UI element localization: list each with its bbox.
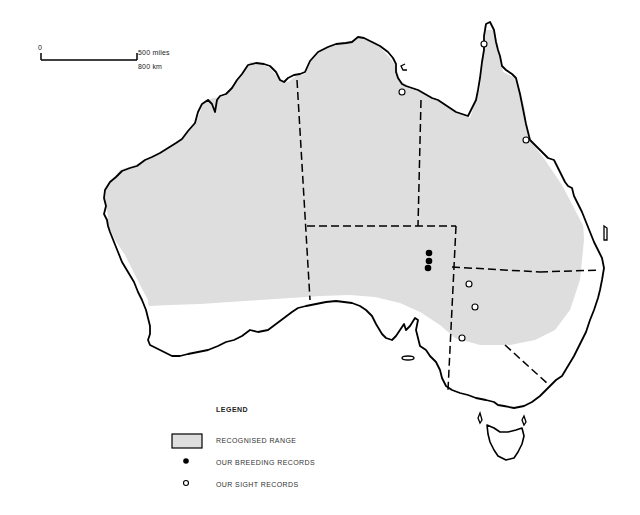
breeding-records (425, 250, 433, 272)
legend-label-sight: OUR SIGHT RECORDS (216, 481, 299, 488)
scale-miles-label: 500 miles (138, 49, 170, 56)
legend-label-range: RECOGNISED RANGE (216, 437, 296, 444)
legend-breeding-dot (183, 458, 189, 464)
island (478, 413, 482, 423)
island (402, 356, 414, 360)
legend-sight-circle (184, 481, 189, 486)
island (401, 64, 407, 70)
australia-distribution-map (0, 0, 640, 515)
scale-bar (41, 53, 137, 60)
legend-range-swatch (172, 434, 202, 448)
island (604, 226, 607, 240)
tasmania-outline (487, 425, 524, 460)
scale-km-label: 800 km (138, 63, 162, 70)
island (522, 416, 526, 425)
legend-label-breeding: OUR BREEDING RECORDS (216, 459, 315, 466)
scale-start-label: 0 (38, 44, 42, 51)
legend-title: LEGEND (216, 406, 248, 413)
